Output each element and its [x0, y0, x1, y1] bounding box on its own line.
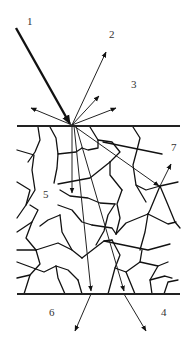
incident-ray: [16, 28, 70, 124]
label-1: 1: [27, 15, 33, 27]
grain-boundary: [58, 205, 92, 225]
label-5: 5: [43, 188, 49, 200]
grain-boundary: [160, 182, 178, 186]
grain-boundary: [133, 127, 146, 202]
grain-boundary: [150, 276, 172, 280]
grain-boundary: [17, 205, 38, 232]
grain-boundary: [82, 127, 98, 150]
grain-boundary: [136, 185, 160, 190]
grain-boundary: [148, 186, 160, 214]
grain-boundary: [17, 250, 40, 278]
grain-boundary: [126, 272, 135, 294]
grain-boundary: [116, 190, 122, 234]
transmitted-ray-6-outer: [75, 294, 91, 331]
grain-boundary: [140, 214, 148, 250]
transmitted-ray-6-inner: [74, 126, 91, 291]
grain-boundary: [58, 162, 110, 184]
diffuse-ray: [72, 96, 99, 125]
label-3: 3: [131, 78, 137, 90]
grain-boundary: [96, 204, 115, 245]
scattering-diagram: 1 2 3 4 5 6 7: [0, 0, 190, 349]
grain-boundary: [26, 222, 36, 250]
grain-boundary: [110, 162, 122, 190]
grain-boundary: [36, 243, 82, 258]
scattered-ray-7-up: [160, 164, 171, 186]
grain-boundaries: [17, 127, 180, 294]
grain-boundary: [17, 182, 30, 218]
grain-boundary: [60, 190, 115, 204]
label-7: 7: [171, 141, 177, 153]
scattered-ray-7: [74, 126, 159, 186]
grain-boundary: [164, 280, 178, 294]
grain-boundary: [24, 275, 30, 294]
grain-boundary: [56, 266, 65, 294]
label-6: 6: [49, 306, 55, 318]
grain-boundary: [54, 154, 58, 183]
grain-boundary: [108, 240, 120, 294]
grain-boundary: [78, 280, 82, 294]
transmitted-ray-4-outer: [124, 294, 146, 331]
grain-boundary: [116, 214, 148, 234]
transmitted-ray-4-inner: [76, 126, 124, 291]
label-4: 4: [161, 306, 167, 318]
grain-boundary: [17, 150, 35, 205]
label-2: 2: [109, 28, 115, 40]
grain-boundary: [17, 262, 78, 280]
grain-boundary: [40, 215, 60, 226]
grain-boundary: [140, 262, 168, 266]
